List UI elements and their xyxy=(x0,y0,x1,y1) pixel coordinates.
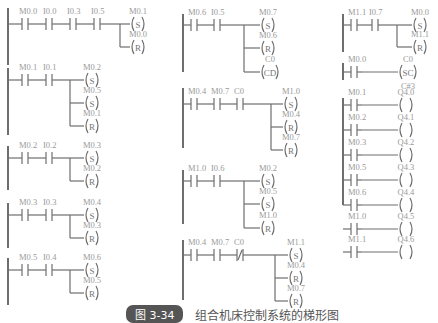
contact-label: M0.2 xyxy=(19,140,37,150)
contact-label: M0.7 xyxy=(211,86,229,96)
no-contact: I0.5 xyxy=(91,6,104,30)
contact-label: I0.3 xyxy=(43,197,56,207)
coil-r: RM0.2 xyxy=(83,163,101,188)
coil-address-label: M0.2 xyxy=(259,163,277,173)
coil-address-label: M0.4 xyxy=(282,109,301,119)
coil-output: Q4.2 xyxy=(398,137,415,162)
no-contact: M0.5 xyxy=(19,252,37,276)
contact-label: I0.5 xyxy=(91,6,104,16)
coil-address-label: M0.7 xyxy=(282,132,300,142)
coil-address-label: M0.5 xyxy=(83,85,101,95)
coil-address-label: M0.1 xyxy=(129,6,147,16)
no-contact: M1.1 xyxy=(348,234,366,258)
coil-address-label: M1.0 xyxy=(259,210,277,220)
rung-r5: M0.5I0.4SM0.6RM0.5 xyxy=(8,252,101,305)
contact-label: M0.0 xyxy=(19,6,37,16)
rung-r15: M0.5 Q4.3 xyxy=(343,162,414,187)
coil-output: Q4.0 xyxy=(398,87,415,112)
figure-caption: 图 3-34 组合机床控制系统的梯形图 xyxy=(126,305,339,323)
contact-label: M1.0 xyxy=(188,163,206,173)
contact-label: I0.0 xyxy=(43,6,56,16)
coil-address-label: M0.2 xyxy=(83,62,101,72)
coil-address-label: M0.1 xyxy=(83,108,101,118)
no-contact: M1.0 xyxy=(348,211,366,235)
no-contact: I0.1 xyxy=(43,62,56,86)
rung-r6: M0.6I0.5SM0.7RM0.6CDC0 xyxy=(183,7,278,79)
svg-text:R: R xyxy=(89,234,95,244)
svg-text:R: R xyxy=(288,146,294,156)
coil-r: RM0.4 xyxy=(282,109,301,134)
rung-r10: M1.1I0.7SM0.0RM1.1 xyxy=(343,7,429,54)
figure-title: 组合机床控制系统的梯形图 xyxy=(195,306,339,323)
nc-contact: C0 xyxy=(234,237,244,261)
coil-s: SM0.7 xyxy=(259,7,277,32)
contact-label: M0.6 xyxy=(348,187,366,197)
coil-address-label: M0.0 xyxy=(129,29,147,39)
coil-address-label: M0.7 xyxy=(259,7,277,17)
contact-label: M0.5 xyxy=(19,252,37,262)
contact-label: I0.1 xyxy=(43,62,56,72)
contact-label: M0.2 xyxy=(348,112,366,122)
coil-address-label: C0 xyxy=(403,54,413,64)
coil-s: SM0.4 xyxy=(83,197,102,222)
contact-label: I0.2 xyxy=(43,140,56,150)
svg-text:S: S xyxy=(288,100,293,110)
no-contact: M0.4 xyxy=(188,237,207,261)
coil-address-label: M0.5 xyxy=(83,275,101,285)
no-contact: M0.3 xyxy=(19,197,37,221)
coil-address-label: M0.4 xyxy=(83,197,102,207)
coil-address-label: Q4.5 xyxy=(398,211,415,221)
svg-text:S: S xyxy=(265,21,270,31)
contact-label: I0.4 xyxy=(43,252,57,262)
contact-label: I0.5 xyxy=(211,7,224,17)
no-contact: I0.0 xyxy=(43,6,56,30)
svg-text:R: R xyxy=(265,224,271,234)
svg-text:S: S xyxy=(293,251,298,261)
coil-address-label: M0.6 xyxy=(83,252,101,262)
svg-text:S: S xyxy=(135,20,140,30)
no-contact: M0.6 xyxy=(348,187,366,211)
coil-s: SM0.2 xyxy=(83,62,101,87)
no-contact: C0 xyxy=(234,86,244,110)
no-contact: I0.4 xyxy=(43,252,57,276)
rung-r18: M1.1 Q4.6 xyxy=(343,234,414,259)
svg-text:R: R xyxy=(288,123,294,133)
coil-address-label: Q4.6 xyxy=(398,234,415,244)
coil-r: RM0.4 xyxy=(287,260,306,285)
contact-label: M0.0 xyxy=(348,54,366,64)
coil-address-label: Q4.2 xyxy=(398,137,415,147)
rung-r13: M0.2 Q4.1 xyxy=(343,112,414,137)
coil-cd: CDC0 xyxy=(262,54,278,79)
coil-address-label: Q4.4 xyxy=(398,187,416,197)
coil-address-label: C0 xyxy=(265,54,275,64)
svg-text:R: R xyxy=(89,122,95,132)
contact-label: M1.0 xyxy=(348,211,366,221)
contact-label: I0.3 xyxy=(67,6,80,16)
coil-address-label: M1.1 xyxy=(287,237,305,247)
rung-r2: M0.1I0.1SM0.2SM0.5RM0.1 xyxy=(8,62,101,135)
svg-text:S: S xyxy=(265,200,270,210)
no-contact: M0.5 xyxy=(348,162,366,186)
contact-label: M0.4 xyxy=(188,237,207,247)
contact-label: I0.7 xyxy=(369,7,382,17)
svg-text:SC: SC xyxy=(402,68,413,78)
contact-label: M0.7 xyxy=(211,237,229,247)
coil-address-label: Q4.1 xyxy=(398,112,415,122)
coil-address-label: M1.1 xyxy=(411,29,429,39)
coil-s: SM0.2 xyxy=(259,163,277,188)
coil-address-label: M0.3 xyxy=(83,220,101,230)
contact-label: C0 xyxy=(234,86,244,96)
svg-text:S: S xyxy=(89,266,94,276)
no-contact: M0.7 xyxy=(211,237,229,261)
no-contact: I0.5 xyxy=(211,7,224,31)
rung-r9: M0.4M0.7C0SM1.1RM0.4RM0.7 xyxy=(183,237,306,308)
svg-text:S: S xyxy=(89,154,94,164)
contact-label: M0.4 xyxy=(188,86,207,96)
coil-output: Q4.3 xyxy=(398,162,415,187)
no-contact: I0.6 xyxy=(211,163,224,187)
no-contact: M0.2 xyxy=(19,140,37,164)
rung-r17: M1.0 Q4.5 xyxy=(343,211,414,236)
coil-s: SM0.5 xyxy=(259,186,277,211)
coil-r: RM0.6 xyxy=(259,30,277,55)
